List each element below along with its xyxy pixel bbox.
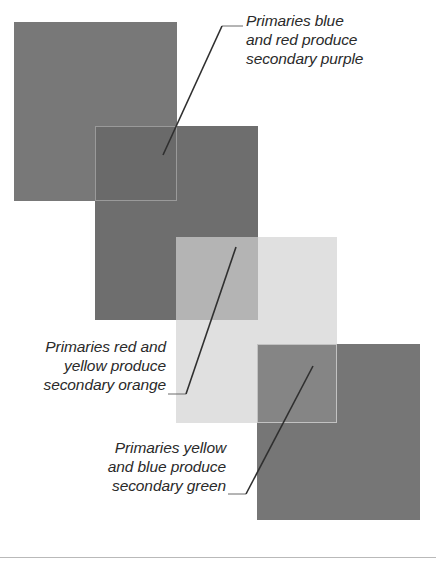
overlap-secondary-green <box>257 344 337 423</box>
callout-label-green: Primaries yellow and blue produce second… <box>54 438 226 495</box>
overlap-secondary-purple <box>95 126 177 201</box>
figure-canvas: Primaries blue and red produce secondary… <box>0 0 436 565</box>
overlap-secondary-orange <box>176 237 258 320</box>
callout-label-orange: Primaries red and yellow produce seconda… <box>14 337 166 394</box>
bottom-divider <box>0 557 436 558</box>
callout-label-purple: Primaries blue and red produce secondary… <box>246 11 431 68</box>
